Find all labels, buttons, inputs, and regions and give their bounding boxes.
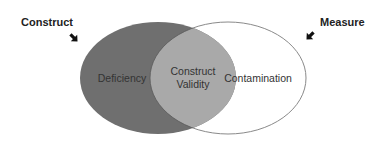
- venn-diagram: Deficiency Construct Validity Contaminat…: [0, 0, 377, 144]
- arrow-down-right-icon: [67, 31, 80, 44]
- construct-validity-label-line1: Construct: [171, 65, 216, 77]
- contamination-label: Contamination: [224, 72, 292, 84]
- construct-validity-label-line2: Validity: [176, 78, 210, 90]
- construct-set-label: Construct: [21, 16, 73, 28]
- arrow-down-left-icon: [303, 29, 316, 42]
- measure-set-label: Measure: [320, 16, 365, 28]
- deficiency-label: Deficiency: [98, 72, 147, 84]
